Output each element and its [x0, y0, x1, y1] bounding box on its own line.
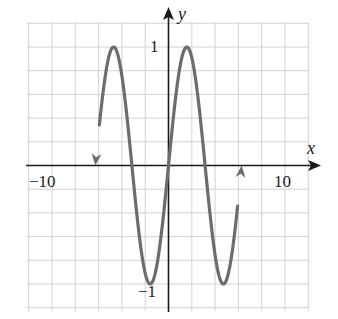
- y-axis-label: y: [176, 4, 186, 24]
- x-axis-label: x: [306, 138, 315, 158]
- curve-right-arrow-icon: [235, 165, 245, 177]
- y-min-tick-label: −1: [138, 282, 156, 301]
- x-min-tick-label: −10: [29, 172, 56, 191]
- x-max-tick-label: 10: [274, 172, 291, 191]
- sine-graph: x y −10 10 1 −1: [0, 0, 338, 319]
- y-max-tick-label: 1: [150, 37, 159, 56]
- curve-left-arrow-icon: [92, 153, 102, 165]
